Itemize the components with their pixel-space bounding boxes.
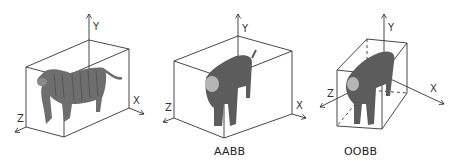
z-axis-label: Z [165,102,172,113]
y-axis-label: Y [241,23,249,34]
x-axis-arrow [129,108,144,114]
x-axis-label: X [296,100,303,111]
x-axis-arrow [292,114,306,118]
x-axis-label: X [133,95,140,106]
bounding-box-diagram: Y X Z Y X Z [0,0,457,164]
caption-oobb: OOBB [344,145,377,158]
y-axis-label: Y [387,22,395,33]
tiger-model-front [205,50,256,126]
tiger-model-oriented [346,51,395,125]
x-axis-label: X [430,83,437,94]
z-axis-arrow [15,127,26,132]
z-axis-label: Z [17,113,24,124]
z-axis-label: Z [327,88,334,99]
y-axis-label: Y [92,21,100,32]
caption-aabb: AABB [214,145,245,158]
z-axis-arrow [163,118,174,122]
tiger-model-side [37,68,122,124]
